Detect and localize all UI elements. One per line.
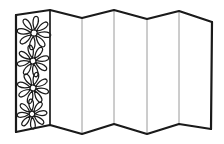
panel-face-6 [179,11,212,129]
panel-face-3 [82,10,114,134]
illustration-canvas: Line drawing of a six-panel folding scre… [0,0,224,144]
panel-face-4 [114,10,147,134]
right-edge [211,22,212,129]
panel-face-2 [50,10,82,134]
folding-screen-illustration [0,0,224,144]
panel-face-5 [147,11,179,134]
